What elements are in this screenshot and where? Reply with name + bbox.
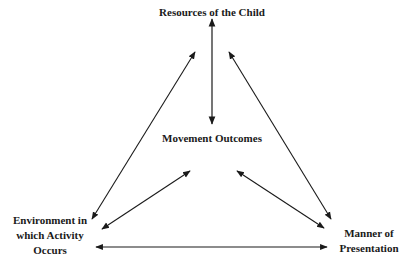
node-manner-line2: Presentation <box>334 241 404 256</box>
node-movement-outcomes: Movement Outcomes <box>160 131 264 146</box>
node-environment: Environment in which Activity Occurs <box>10 213 90 258</box>
node-resources-of-child: Resources of the Child <box>150 5 274 20</box>
node-manner-line1: Manner of <box>334 226 404 241</box>
arrow-center-right <box>237 171 324 228</box>
node-environment-line1: Environment in <box>10 213 90 228</box>
arrow-center-left <box>102 171 190 229</box>
node-manner-of-presentation: Manner of Presentation <box>334 226 404 256</box>
node-environment-line3: Occurs <box>10 243 90 258</box>
node-environment-line2: which Activity <box>10 228 90 243</box>
